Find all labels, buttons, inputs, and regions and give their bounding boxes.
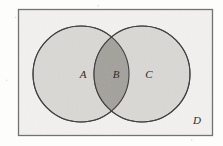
intersection-label: B xyxy=(113,68,120,80)
venn-diagram-canvas: A B C D xyxy=(0,0,223,146)
set-c-label: C xyxy=(145,68,153,80)
universal-set-label: D xyxy=(192,114,201,126)
set-a-label: A xyxy=(79,68,87,80)
venn-diagram-figure: A B C D xyxy=(0,0,223,146)
